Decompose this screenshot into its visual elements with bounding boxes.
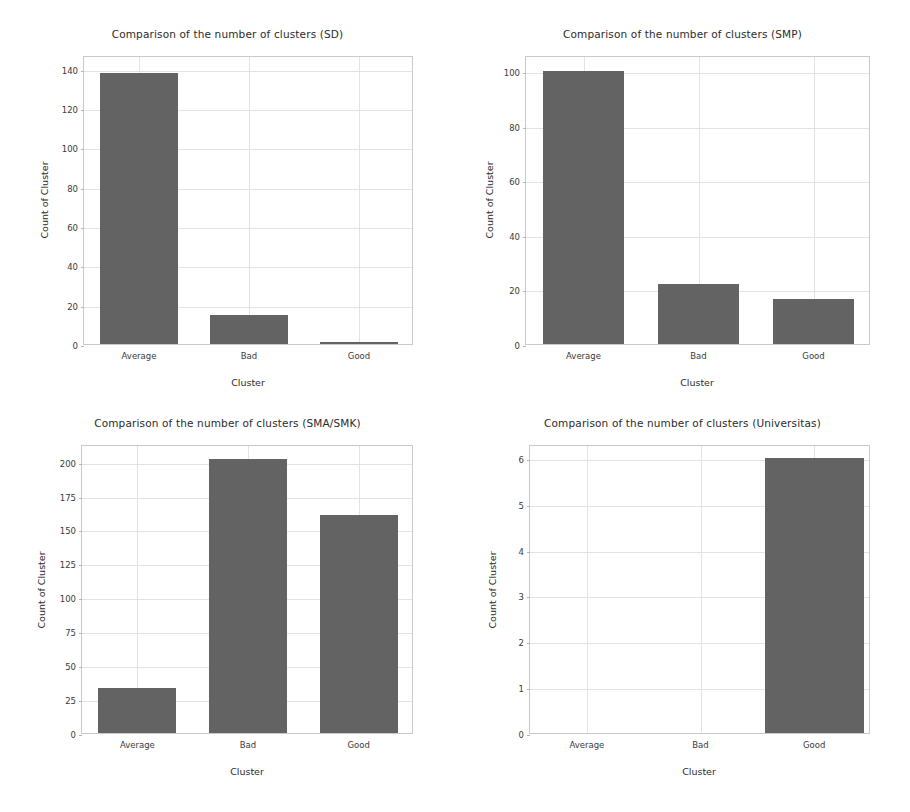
y-axis-label-smp: Count of Cluster [484,161,495,238]
bar [320,342,398,344]
bar [209,459,287,733]
y-axis-tick-label: 60 [509,177,520,187]
plot-area-sma-smk: 0255075100125150175200AverageBadGood [81,445,413,734]
y-axis-tick-label: 60 [67,223,78,233]
y-axis-tick-mark [523,291,526,292]
y-axis-tick-mark [527,643,530,644]
x-axis-tick-label: Average [122,351,157,361]
x-axis-label-sma-smk: Cluster [230,766,264,777]
y-axis-tick-label: 100 [62,144,78,154]
x-axis-label-sd: Cluster [231,377,265,388]
y-axis-tick-mark [81,110,84,111]
y-axis-tick-label: 0 [515,341,520,351]
x-axis-tick-label: Bad [240,740,256,750]
y-axis-tick-mark [81,307,84,308]
bar [100,73,178,344]
y-axis-tick-label: 4 [519,547,524,557]
y-axis-tick-mark [523,128,526,129]
bar [765,458,864,733]
y-axis-tick-mark [79,464,82,465]
y-axis-tick-mark [81,346,84,347]
chart-title-smp: Comparison of the number of clusters (SM… [455,28,910,40]
y-axis-tick-label: 200 [60,459,76,469]
y-axis-tick-mark [523,182,526,183]
y-axis-tick-mark [523,73,526,74]
y-axis-tick-label: 50 [65,662,76,672]
x-axis-tick-label: Average [566,351,601,361]
x-axis-tick-label: Bad [692,740,708,750]
chart-panel-sd: Comparison of the number of clusters (SD… [0,0,455,400]
plot-area-smp: 020406080100AverageBadGood [525,56,870,345]
y-axis-tick-label: 140 [62,66,78,76]
y-axis-tick-mark [527,735,530,736]
y-axis-tick-label: 0 [71,730,76,740]
y-axis-tick-label: 150 [60,526,76,536]
gridline-vertical [249,57,250,344]
y-axis-tick-mark [81,189,84,190]
y-axis-tick-mark [527,597,530,598]
y-axis-tick-label: 80 [67,184,78,194]
chart-title-sd: Comparison of the number of clusters (SD… [0,28,455,40]
x-axis-label-smp: Cluster [680,377,714,388]
y-axis-tick-mark [523,346,526,347]
y-axis-tick-mark [527,689,530,690]
gridline-vertical [587,446,588,733]
y-axis-tick-label: 2 [519,638,524,648]
x-axis-tick-label: Average [569,740,604,750]
bar [98,688,176,733]
y-axis-tick-label: 6 [519,455,524,465]
chart-panel-smp: Comparison of the number of clusters (SM… [455,0,910,400]
y-axis-label-universitas: Count of Cluster [487,551,498,628]
y-axis-tick-label: 3 [519,592,524,602]
y-axis-tick-label: 175 [60,493,76,503]
y-axis-tick-mark [81,71,84,72]
y-axis-tick-label: 20 [67,302,78,312]
y-axis-tick-mark [527,460,530,461]
y-axis-tick-label: 40 [509,232,520,242]
bar [543,71,624,344]
y-axis-tick-mark [81,267,84,268]
gridline-horizontal [84,71,412,72]
y-axis-tick-label: 5 [519,501,524,511]
y-axis-label-sma-smk: Count of Cluster [36,551,47,628]
y-axis-tick-mark [79,599,82,600]
x-axis-tick-label: Bad [241,351,257,361]
figure-canvas: Comparison of the number of clusters (SD… [0,0,910,812]
y-axis-tick-label: 1 [519,684,524,694]
gridline-vertical [701,446,702,733]
chart-panel-sma-smk: Comparison of the number of clusters (SM… [0,400,455,812]
y-axis-tick-mark [81,149,84,150]
y-axis-tick-mark [527,506,530,507]
plot-area-sd: 020406080100120140AverageBadGood [83,56,413,345]
plot-area-universitas: 0123456AverageBadGood [529,445,870,734]
y-axis-tick-label: 100 [60,594,76,604]
y-axis-tick-label: 0 [519,730,524,740]
y-axis-tick-mark [79,565,82,566]
y-axis-tick-label: 125 [60,560,76,570]
y-axis-tick-label: 40 [67,262,78,272]
x-axis-label-universitas: Cluster [682,766,716,777]
x-axis-tick-label: Bad [690,351,706,361]
y-axis-tick-label: 75 [65,628,76,638]
chart-panel-universitas: Comparison of the number of clusters (Un… [455,400,910,812]
bar [773,299,854,344]
x-axis-tick-label: Average [120,740,155,750]
bar [658,284,739,344]
y-axis-tick-mark [79,701,82,702]
y-axis-tick-label: 25 [65,696,76,706]
y-axis-tick-mark [79,735,82,736]
bar [210,315,288,344]
x-axis-tick-label: Good [347,740,369,750]
chart-title-universitas: Comparison of the number of clusters (Un… [455,417,910,429]
y-axis-tick-label: 100 [504,68,520,78]
bar [320,515,398,733]
y-axis-tick-mark [79,531,82,532]
y-axis-tick-mark [79,498,82,499]
y-axis-tick-label: 80 [509,123,520,133]
x-axis-tick-label: Good [348,351,370,361]
y-axis-tick-mark [81,228,84,229]
x-axis-tick-label: Good [803,740,825,750]
chart-title-sma-smk: Comparison of the number of clusters (SM… [0,417,455,429]
y-axis-tick-mark [527,552,530,553]
gridline-vertical [359,57,360,344]
